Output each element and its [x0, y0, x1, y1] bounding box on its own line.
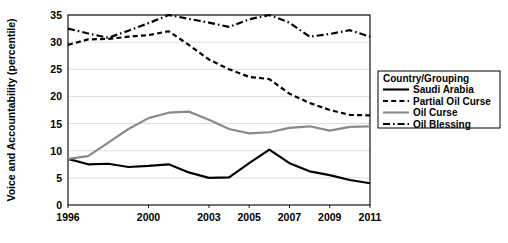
legend-label-saudi-arabia: Saudi Arabia [413, 84, 474, 95]
y-tick-label: 5 [56, 172, 62, 184]
y-tick-label: 10 [50, 145, 62, 157]
x-tick-label: 2005 [238, 211, 262, 223]
x-tick-label: 2003 [197, 211, 221, 223]
y-tick-label: 15 [50, 118, 62, 130]
legend-label-oil-curse: Oil Curse [413, 107, 458, 118]
x-tick-label: 2007 [278, 211, 302, 223]
chart-legend: Country/Grouping Saudi ArabiaPartial Oil… [378, 71, 500, 130]
x-tick-label: 1996 [56, 211, 80, 223]
x-tick-label: 2000 [137, 211, 161, 223]
legend-title: Country/Grouping [383, 73, 469, 84]
y-tick-label: 0 [56, 199, 62, 211]
y-tick-label: 30 [50, 36, 62, 48]
chart-container: Voice and Accountability (percentile) 05… [0, 0, 508, 243]
x-tick-label: 2011 [359, 211, 382, 223]
y-axis-title: Voice and Accountability (percentile) [5, 18, 17, 201]
line-chart: Voice and Accountability (percentile) 05… [0, 0, 508, 243]
y-tick-label: 20 [50, 90, 62, 102]
y-tick-label: 25 [50, 63, 62, 75]
legend-label-partial-oil-curse: Partial Oil Curse [413, 96, 491, 107]
legend-label-oil-blessing: Oil Blessing [413, 119, 471, 130]
y-tick-label: 35 [50, 9, 62, 21]
x-tick-label: 2009 [318, 211, 342, 223]
